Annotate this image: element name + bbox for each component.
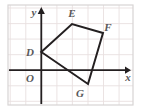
coordinate-plane-svg: y x O D E F G <box>0 0 141 110</box>
vertex-label-g: G <box>76 87 84 99</box>
vertex-label-e: E <box>67 7 75 19</box>
coordinate-plane-figure: y x O D E F G <box>0 0 141 110</box>
y-axis-label: y <box>30 6 37 18</box>
vertex-label-d: D <box>25 46 34 58</box>
origin-label: O <box>26 72 34 84</box>
x-axis-label: x <box>124 71 131 83</box>
vertex-label-f: F <box>103 21 112 33</box>
